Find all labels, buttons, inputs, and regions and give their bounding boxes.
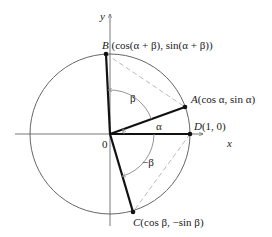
label-D-coords: (1, 0) [202,120,226,132]
unit-circle-diagram: y x 0 B (cos(α + β), sin(α + β)) A(cos α… [0,0,272,237]
angle-alpha-label: α [156,121,162,132]
diagram-canvas [0,0,272,237]
label-D-letter: D [194,120,202,132]
label-A-coords: (cos α, sin α) [198,93,255,105]
label-C-coords: (cos β, −sin β) [140,216,203,228]
label-C: C(cos β, −sin β) [133,217,204,228]
angle-neg-beta-label: −β [142,157,154,168]
point-D [188,132,193,137]
point-C [131,210,136,215]
label-A-letter: A [191,93,198,105]
label-B-letter: B [102,39,109,51]
label-D: D(1, 0) [194,121,226,132]
label-B: B (cos(α + β), sin(α + β)) [102,40,213,51]
label-A: A(cos α, sin α) [191,94,255,105]
y-axis-label: y [100,11,105,22]
angle-beta-label: β [130,93,136,104]
x-axis-label: x [227,138,232,149]
point-A [183,105,188,110]
point-B [104,52,109,57]
chord-DC [133,134,190,212]
radius-OB [106,54,110,134]
origin-label: 0 [102,139,108,150]
label-B-coords: (cos(α + β), sin(α + β)) [111,39,212,51]
